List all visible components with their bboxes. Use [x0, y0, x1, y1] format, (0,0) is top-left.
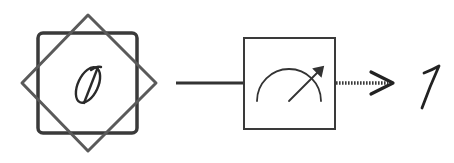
zero-glyph: [71, 64, 105, 107]
gate-box: [244, 38, 335, 129]
measurement-diagram: 0 1: [0, 0, 454, 163]
measurement-gate: [244, 38, 335, 129]
qubit-star-frame-icon: [22, 15, 156, 151]
one-glyph: [422, 66, 439, 108]
